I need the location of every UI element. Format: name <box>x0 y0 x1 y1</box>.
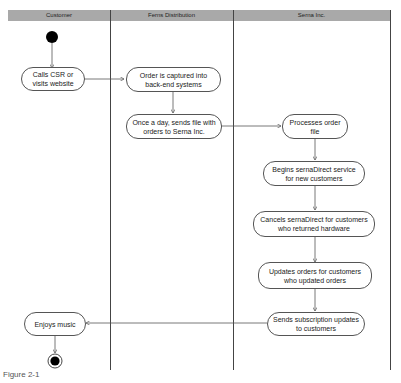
initial-node-icon <box>46 31 58 43</box>
activity-cancels-sernadirect: Cancels sernaDirect for customers who re… <box>253 211 375 237</box>
activity-order-captured: Order is captured into back-end systems <box>126 67 221 92</box>
figure-caption: Figure 2-1 <box>3 370 39 379</box>
activity-sends-subscription-updates: Sends subscription updates to customers <box>267 312 365 336</box>
activity-processes-order-file: Processes order file <box>282 114 348 139</box>
activity-enjoys-music: Enjoys music <box>24 312 86 336</box>
activity-begins-sernadirect: Begins sernaDirect service for new custo… <box>263 161 365 186</box>
activity-calls-csr: Calls CSR or visits website <box>21 67 85 91</box>
activity-updates-orders: Updates orders for customers who updated… <box>258 262 372 289</box>
activity-sends-file: Once a day, sends file with orders to Se… <box>126 114 222 139</box>
